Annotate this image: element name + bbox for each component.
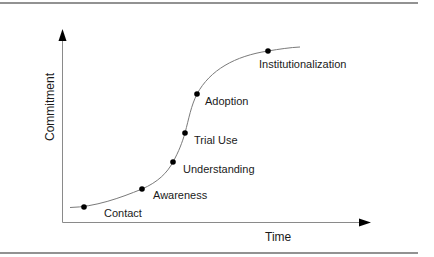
x-axis-title: Time [265, 231, 291, 243]
stage-label-institutionalization: Institutionalization [259, 59, 346, 70]
stage-label-contact: Contact [104, 208, 142, 219]
y-axis-title: Commitment [44, 77, 56, 141]
commitment-curve-diagram: Contact Awareness Understanding Trial Us… [0, 0, 434, 257]
point-institutionalization-icon [265, 48, 271, 54]
diagram-canvas [0, 0, 434, 257]
stage-label-adoption: Adoption [205, 96, 248, 107]
point-adoption-icon [194, 91, 200, 97]
stage-label-awareness: Awareness [153, 190, 207, 201]
y-axis-arrow-icon [59, 29, 67, 41]
stage-label-trial-use: Trial Use [194, 135, 238, 146]
commitment-curve [70, 47, 300, 208]
stage-label-understanding: Understanding [183, 164, 255, 175]
point-contact-icon [81, 204, 87, 210]
x-axis-arrow-icon [359, 219, 371, 227]
point-trial-use-icon [182, 130, 188, 136]
point-awareness-icon [139, 186, 145, 192]
point-understanding-icon [170, 159, 176, 165]
